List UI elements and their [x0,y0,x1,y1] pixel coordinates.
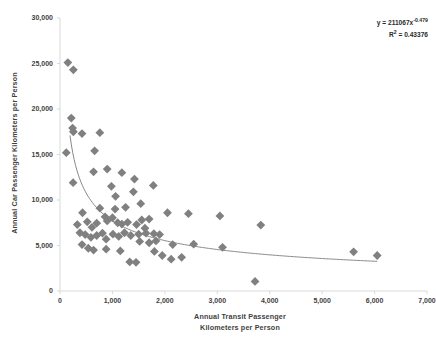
data-point [95,128,104,137]
y-axis-tick-label: 30,000 [13,14,53,21]
data-point [163,208,172,217]
data-point [373,251,382,260]
x-axis-title-line-1: Annual Transit Passenger [60,312,420,323]
data-point [117,168,126,177]
plot-canvas [0,0,436,342]
x-axis-tick-label: 7,000 [405,297,436,304]
data-point [145,238,154,247]
data-point [132,258,141,267]
data-point [111,205,120,214]
x-axis-title-line-2: Kilometers per Person [60,323,420,334]
data-point [184,209,193,218]
data-point [121,203,130,212]
data-point [189,240,198,249]
data-point [256,221,265,230]
data-point [150,247,159,256]
r-squared-number: = 0.43376 [397,31,428,38]
data-point [135,237,144,246]
y-axis-tick-label: 15,000 [13,151,53,158]
x-axis-title: Annual Transit Passenger Kilometers per … [60,312,420,333]
data-point [63,58,72,67]
x-axis-tick-label: 1,000 [90,297,134,304]
regression-equation-base: y = 211067x [377,19,414,26]
data-point [158,251,167,260]
data-point [62,148,71,157]
y-axis-tick-label: 0 [13,287,53,294]
data-point [73,220,82,229]
regression-equation: y = 211067x-0.479 [377,16,428,28]
data-point [69,65,78,74]
x-axis-tick-label: 0 [38,297,82,304]
y-axis-tick-label: 20,000 [13,105,53,112]
y-axis-tick-label: 10,000 [13,196,53,203]
data-point [129,187,138,196]
data-point [177,253,186,262]
data-point [149,181,158,190]
x-axis-tick-label: 2,000 [143,297,187,304]
data-point [130,175,139,184]
data-point [78,208,87,217]
regression-equation-exponent: -0.479 [413,17,428,23]
data-point [167,255,176,264]
data-point [95,204,104,213]
data-point [89,167,98,176]
data-point [349,247,358,256]
data-point [145,215,154,224]
data-point [136,199,145,208]
r-squared-value: R2 = 0.43376 [377,28,428,40]
scatter-chart: Annual Car Passenger Kilometers per Pers… [0,0,436,342]
data-point [107,182,116,191]
x-axis-tick-label: 3,000 [195,297,239,304]
data-point [134,230,143,239]
data-point [67,114,76,123]
x-axis-tick-label: 4,000 [248,297,292,304]
trendline-equation-annotation: y = 211067x-0.479 R2 = 0.43376 [377,16,428,39]
data-point [69,178,78,187]
y-axis-tick-label: 25,000 [13,60,53,67]
data-point [102,245,111,254]
data-point [78,129,87,138]
x-axis-tick-label: 6,000 [353,297,397,304]
data-point [111,192,120,201]
y-axis-tick-label: 5,000 [13,242,53,249]
data-point [90,146,99,155]
x-axis-tick-label: 5,000 [300,297,344,304]
data-point [216,212,225,221]
data-point [116,247,125,256]
data-point [251,277,260,286]
data-point [103,165,112,174]
